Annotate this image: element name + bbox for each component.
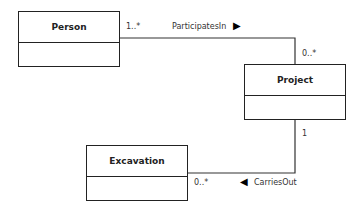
- direction-arrow-left-icon: ◀: [240, 177, 248, 187]
- class-name: Excavation: [87, 146, 187, 177]
- class-person[interactable]: Person: [18, 11, 120, 67]
- multiplicity-label: 0..*: [194, 178, 208, 188]
- direction-arrow-right-icon: ▶: [233, 21, 241, 31]
- participates-in-line: [119, 38, 295, 64]
- multiplicity-label: 1: [302, 129, 307, 139]
- multiplicity-label: 1..*: [126, 22, 140, 32]
- class-project[interactable]: Project: [244, 64, 346, 120]
- association-label: ParticipatesIn: [172, 22, 226, 32]
- class-excavation[interactable]: Excavation: [86, 145, 188, 201]
- multiplicity-label: 0..*: [302, 49, 316, 59]
- class-name: Person: [19, 12, 119, 43]
- carries-out-line: [188, 119, 295, 173]
- class-name: Project: [245, 65, 345, 96]
- association-label: CarriesOut: [254, 178, 297, 188]
